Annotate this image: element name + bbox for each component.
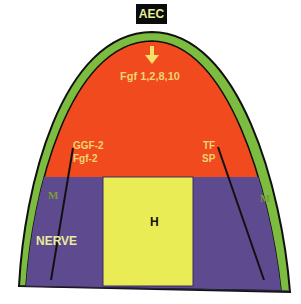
ggf2-label: GGF-2 [73, 141, 104, 151]
center-block [103, 177, 193, 286]
center-h-label: H [150, 216, 159, 228]
tf-label: TF [203, 141, 215, 151]
limb-bud-svg [0, 0, 301, 304]
left-muscle-label: M [48, 190, 58, 201]
sp-label: SP [202, 154, 215, 164]
limb-bud-diagram: AEC Fgf 1,2,8,10 GGF-2 Fgf-2 TF SP M M N… [0, 0, 301, 304]
fgf-signal-label: Fgf 1,2,8,10 [120, 71, 180, 82]
fgf2-label: Fgf-2 [73, 154, 97, 164]
aec-label-box: AEC [136, 4, 167, 24]
aec-label: AEC [139, 7, 164, 21]
right-muscle-label: M [260, 193, 270, 204]
nerve-label: NERVE [36, 235, 77, 247]
